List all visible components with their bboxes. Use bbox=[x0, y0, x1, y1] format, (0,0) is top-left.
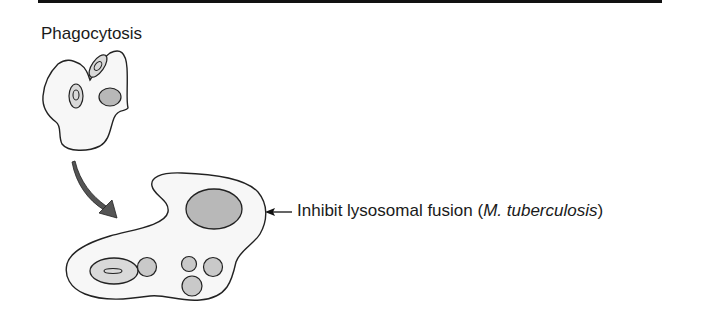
lysosome-large bbox=[186, 189, 242, 229]
lysosome-small-4 bbox=[182, 276, 202, 296]
cell-membrane-bottom bbox=[66, 173, 266, 300]
lysosome-small-3 bbox=[204, 258, 223, 277]
left-arrow-icon bbox=[265, 208, 292, 216]
inhibit-lysosomal-fusion-label: Inhibit lysosomal fusion (M. tuberculosi… bbox=[297, 201, 603, 221]
label-prefix: Inhibit lysosomal fusion ( bbox=[297, 201, 483, 220]
lysosome-small-2 bbox=[182, 257, 197, 272]
lysosome-top bbox=[99, 88, 121, 106]
phagocytosis-diagram bbox=[0, 0, 703, 325]
lysosome-small-1 bbox=[138, 258, 157, 277]
label-suffix: ) bbox=[597, 201, 603, 220]
label-organism: M. tuberculosis bbox=[483, 201, 597, 220]
phagocyte-top bbox=[43, 51, 128, 150]
phagocyte-bottom bbox=[66, 173, 266, 300]
phagosome-bottom-bacterium bbox=[104, 269, 122, 274]
curved-down-arrow-icon bbox=[72, 161, 117, 218]
phagosome-bacterium bbox=[73, 90, 79, 100]
